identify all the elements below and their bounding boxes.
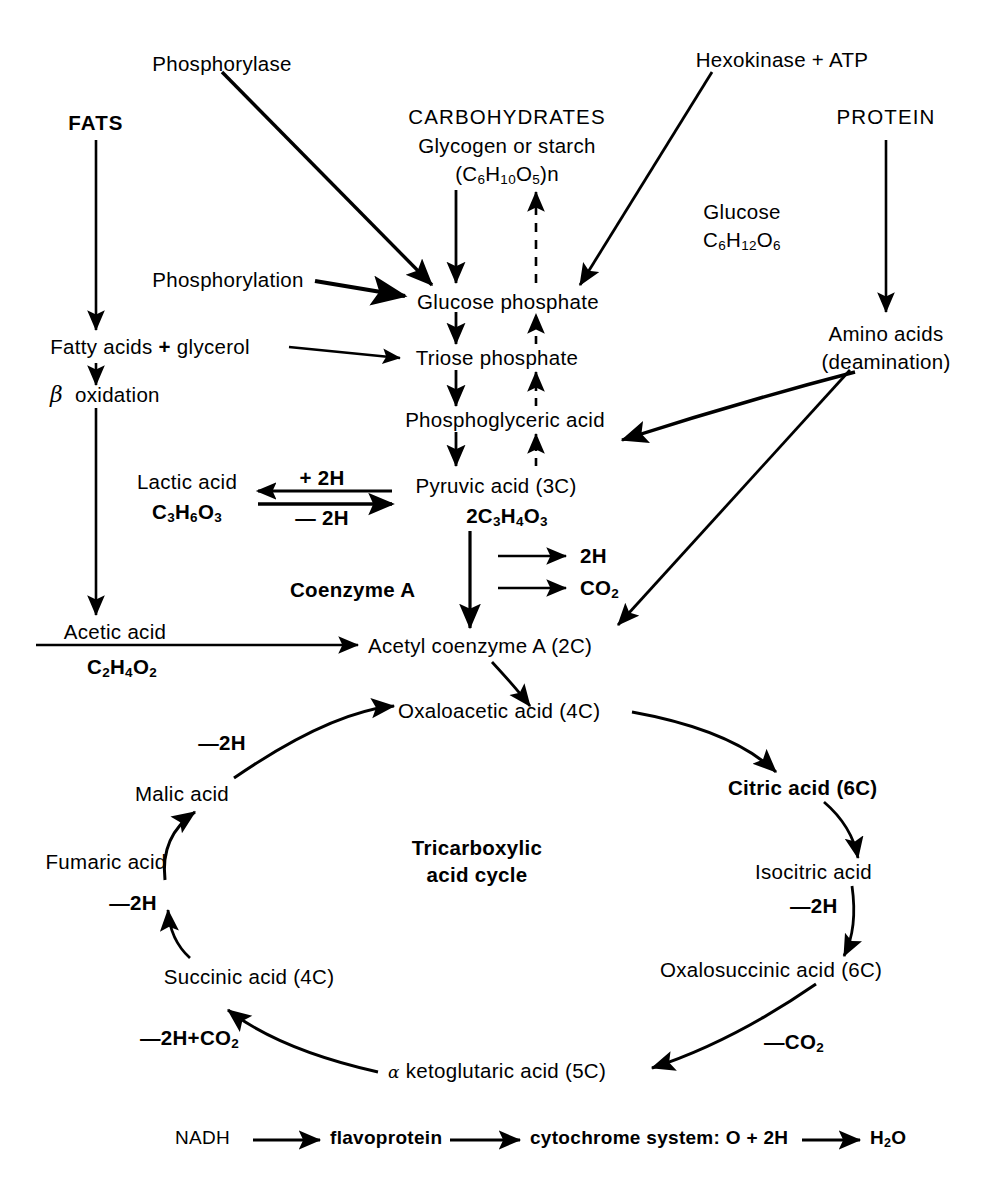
label-coenzyme-a: Coenzyme A	[290, 578, 415, 602]
label-lactic-acid: Lactic acid	[137, 470, 237, 494]
label-succinic-acid: Succinic acid (4C)	[164, 965, 335, 989]
label-minus-2h-fumarate: —2H	[109, 891, 157, 915]
alpha-symbol: α	[388, 1062, 400, 1082]
label-carbohydrates: CARBOHYDRATES	[408, 105, 605, 129]
label-glycogen-or-starch: Glycogen or starch	[418, 134, 595, 158]
label-co2-product: CO2	[580, 576, 619, 602]
label-cycle-line2: acid cycle	[426, 863, 527, 887]
label-glucose-formula: C6H12O6	[703, 228, 781, 254]
label-beta-oxidation: β oxidation	[50, 382, 160, 408]
label-plus-2h: + 2H	[299, 466, 344, 490]
label-hexokinase-atp: Hexokinase + ATP	[696, 48, 869, 72]
label-acetyl-coenzyme-a: Acetyl coenzyme A (2C)	[368, 634, 592, 658]
label-minus-co2: —CO2	[764, 1030, 824, 1056]
label-phosphoglyceric-acid: Phosphoglyceric acid	[405, 408, 605, 432]
label-cytochrome-system: cytochrome system: O + 2H	[530, 1127, 788, 1149]
arrow-amino-acids-to-phosphoglyceric-acid	[622, 372, 855, 440]
arrow-amino-acids-to-acetyl-coa	[618, 370, 850, 625]
label-glucose: Glucose	[703, 200, 780, 224]
arrow-oxaloacetic-acid-to-citric-acid	[632, 712, 776, 772]
label-minus-2h-malate: —2H	[198, 731, 246, 755]
arrow-citric-acid-to-isocitric-acid	[824, 802, 858, 858]
label-phosphorylase: Phosphorylase	[152, 52, 292, 76]
label-glucose-phosphate: Glucose phosphate	[417, 290, 599, 314]
beta-symbol: β	[50, 382, 63, 407]
label-fumaric-acid: Fumaric acid	[46, 850, 167, 874]
label-minus-2h-isocitrate: —2H	[790, 894, 838, 918]
label-minus-2h-plus-co2: —2H+CO2	[140, 1026, 239, 1052]
arrow-phosphorylation-to-glucose-phosphate	[315, 281, 405, 296]
arrow-alpha-ketoglutaric-acid-to-succinic-acid	[228, 1010, 378, 1072]
label-deamination: (deamination)	[821, 350, 950, 374]
label-pyruvic-acid: Pyruvic acid (3C)	[415, 474, 576, 498]
label-fats: FATS	[68, 111, 123, 135]
arrow-malic-acid-to-oxaloacetic-acid	[234, 706, 394, 778]
label-oxaloacetic-acid: Oxaloacetic acid (4C)	[398, 699, 600, 723]
arrow-fatty-acids-to-triose-phosphate	[289, 347, 400, 358]
label-triose-phosphate: Triose phosphate	[416, 346, 578, 370]
label-malic-acid: Malic acid	[135, 782, 229, 806]
label-h2o: H2O	[870, 1127, 906, 1151]
label-nadh: NADH	[175, 1127, 230, 1149]
label-oxalosuccinic-acid: Oxalosuccinic acid (6C)	[660, 958, 882, 982]
label-minus-2h: — 2H	[295, 506, 349, 530]
label-flavoprotein: flavoprotein	[330, 1127, 442, 1149]
label-alpha-ketoglutaric-acid: α ketoglutaric acid (5C)	[388, 1059, 606, 1083]
label-amino-acids: Amino acids	[829, 322, 944, 346]
label-phosphorylation: Phosphorylation	[152, 268, 304, 292]
label-cycle-line1: Tricarboxylic	[412, 836, 542, 860]
label-acetic-acid: Acetic acid	[64, 620, 166, 644]
arrow-phosphorylase-to-glucose-phosphate	[222, 72, 432, 285]
label-acetic-acid-formula: C2H4O2	[87, 655, 157, 681]
label-citric-acid: Citric acid (6C)	[728, 776, 877, 800]
label-lactic-acid-formula: C3H6O3	[152, 500, 222, 526]
label-pyruvic-formula: 2C3H4O3	[466, 504, 548, 530]
label-isocitric-acid: Isocitric acid	[755, 860, 872, 884]
metabolic-pathway-diagram: Phosphorylase Hexokinase + ATP FATS CARB…	[0, 0, 998, 1202]
label-fatty-acids-glycerol: Fatty acids + glycerol	[50, 335, 250, 359]
arrow-succinic-acid-to-fumaric-acid	[168, 910, 190, 958]
arrow-isocitric-acid-to-oxalosuccinic-acid	[844, 886, 854, 956]
arrow-hexokinase-to-glucose-phosphate	[580, 72, 712, 285]
label-2h-product: 2H	[580, 544, 607, 568]
label-glycogen-formula: (C6H10O5)n	[455, 162, 559, 188]
arrow-fumaric-acid-to-malic-acid	[164, 812, 195, 880]
label-protein: PROTEIN	[837, 105, 936, 129]
